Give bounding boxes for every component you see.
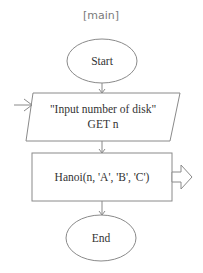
input-entry-arrow-icon — [14, 99, 32, 111]
start-node: Start — [67, 39, 137, 83]
flowchart: [main] Start "Input number of disk" GET … — [0, 0, 203, 273]
end-label: End — [92, 232, 111, 244]
diagram-title: [main] — [83, 9, 119, 22]
input-label-line1: "Input number of disk" — [50, 103, 156, 116]
call-exit-arrow-icon — [172, 165, 192, 189]
call-label: Hanoi(n, 'A', 'B', 'C') — [55, 171, 150, 184]
input-label-line2: GET n — [88, 118, 119, 130]
input-node: "Input number of disk" GET n — [26, 93, 180, 141]
connector-start-input — [99, 83, 105, 93]
call-node: Hanoi(n, 'A', 'B', 'C') — [32, 153, 172, 201]
input-parallelogram — [26, 93, 180, 141]
connector-input-call — [99, 141, 105, 153]
start-label: Start — [91, 55, 114, 67]
connector-call-end — [99, 201, 105, 215]
end-node: End — [66, 215, 136, 261]
